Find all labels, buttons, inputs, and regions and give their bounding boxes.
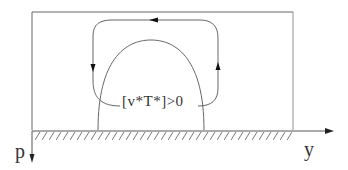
diagram-canvas (0, 0, 348, 170)
dome-contour (98, 40, 204, 130)
p-axis-label: p (15, 140, 25, 163)
arrow-left-downward-icon (91, 64, 96, 72)
y-axis-label: y (304, 138, 314, 161)
arrow-right-upward-icon (216, 62, 221, 70)
arrow-top-leftward-icon (149, 18, 158, 23)
bounding-box (32, 12, 293, 130)
ground-surface-hatched (33, 131, 292, 141)
y-axis-arrow-icon (325, 128, 334, 134)
p-axis-arrow-icon (30, 154, 35, 163)
heat-flux-label: [v*T*]>0 (120, 93, 186, 110)
